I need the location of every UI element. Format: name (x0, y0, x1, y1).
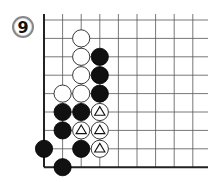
black-stone (73, 103, 90, 120)
white-stone (73, 30, 90, 47)
white-stone (73, 85, 90, 102)
white-stone (73, 48, 90, 65)
black-stone (91, 67, 108, 84)
black-stone (91, 48, 108, 65)
black-stone (91, 85, 108, 102)
black-stone (73, 140, 90, 157)
go-board (0, 0, 213, 182)
black-stone (54, 122, 71, 139)
black-stone (54, 103, 71, 120)
black-stone (35, 140, 52, 157)
white-stone (73, 67, 90, 84)
black-stone (54, 159, 71, 176)
white-stone (54, 85, 71, 102)
